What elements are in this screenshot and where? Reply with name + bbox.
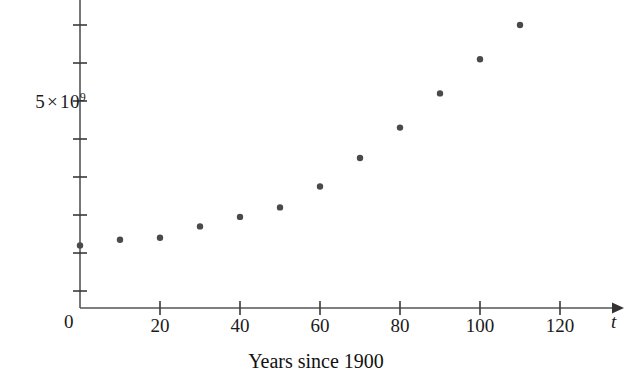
data-point: [317, 183, 323, 189]
x-axis-tick-label-120: 120: [546, 316, 575, 335]
data-point: [437, 90, 443, 96]
data-point: [237, 214, 243, 220]
data-point: [77, 242, 83, 248]
data-point: [157, 235, 163, 241]
y-label-base: 10: [60, 91, 80, 112]
data-point: [517, 22, 523, 28]
y-axis-tick-label-5e9: 5×109: [35, 91, 86, 113]
y-label-times-sign: ×: [45, 91, 60, 112]
x-axis-tick-label-0: 0: [64, 312, 74, 331]
data-point: [277, 204, 283, 210]
x-axis-tick-label-40: 40: [231, 316, 250, 335]
x-axis-variable-label: t: [611, 311, 616, 333]
data-point-series: [77, 22, 523, 249]
data-point: [477, 56, 483, 62]
scatter-plot-figure: 5×109 0 20406080100120 t Years since 190…: [0, 0, 632, 382]
x-axis-caption: Years since 1900: [0, 350, 632, 373]
data-point: [397, 124, 403, 130]
x-axis-tick-label-100: 100: [466, 316, 495, 335]
x-axis-tick-label-20: 20: [151, 316, 170, 335]
x-axis-tick-label-60: 60: [311, 316, 330, 335]
x-axis-tick-label-80: 80: [391, 316, 410, 335]
data-point: [117, 237, 123, 243]
data-point: [197, 223, 203, 229]
y-label-mantissa: 5: [35, 91, 45, 112]
y-label-exponent: 9: [80, 90, 86, 104]
data-point: [357, 155, 363, 161]
